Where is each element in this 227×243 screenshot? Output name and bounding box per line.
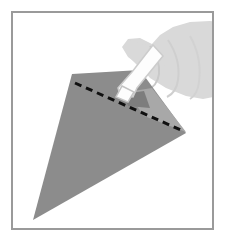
paper-cone-shape <box>33 70 186 220</box>
illustration-canvas <box>0 0 227 243</box>
illustration-figure: A hand holding a glue bottle squeezes gl… <box>0 0 227 243</box>
